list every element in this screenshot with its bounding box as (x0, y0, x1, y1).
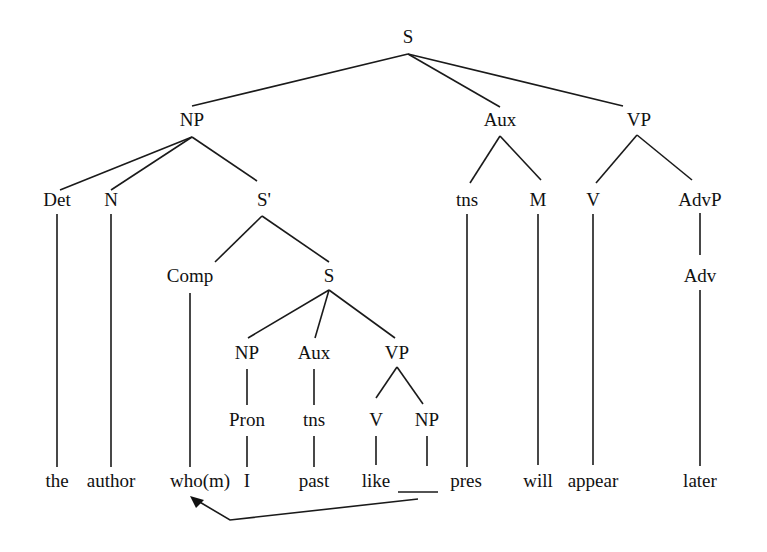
node-s-root: S (403, 26, 414, 47)
node-aux-emb: Aux (298, 342, 331, 363)
branch-line (262, 216, 329, 262)
tree-nodes: SNPAuxVPDetNS'tnsMVAdvPCompSAdvNPAuxVPPr… (43, 26, 721, 430)
movement-arrow (190, 496, 418, 520)
syntax-tree-diagram: SNPAuxVPDetNS'tnsMVAdvPCompSAdvNPAuxVPPr… (0, 0, 767, 552)
branch-line (329, 290, 395, 338)
branch-line (637, 135, 692, 180)
node-aux-main: Aux (484, 109, 517, 130)
branch-line (470, 136, 500, 183)
node-s-bar: S' (257, 189, 271, 210)
arrowhead-icon (190, 496, 204, 508)
leaf-I: I (244, 470, 250, 491)
node-n: N (104, 189, 118, 210)
node-np-gap: NP (415, 409, 439, 430)
branch-line (215, 216, 262, 262)
branch-line (376, 367, 397, 398)
node-np-emb: NP (235, 342, 259, 363)
node-vp-main: VP (627, 109, 651, 130)
branch-line (111, 137, 192, 190)
node-s-emb: S (324, 265, 335, 286)
leaf-like: like (362, 470, 391, 491)
tree-leaves: theauthorwho(m)Ipastlikepreswillappearla… (45, 470, 717, 492)
node-vp-emb: VP (385, 342, 409, 363)
branch-line (596, 135, 637, 183)
node-tns-main: tns (456, 189, 478, 210)
branch-line (192, 137, 257, 181)
node-tns-emb: tns (303, 409, 325, 430)
branch-line (397, 367, 423, 404)
branch-line (60, 137, 192, 190)
node-m: M (530, 189, 547, 210)
node-np-main: NP (180, 109, 204, 130)
node-v-main: V (586, 189, 600, 210)
leaf-past: past (299, 470, 330, 491)
branch-line (192, 54, 408, 106)
leaf-author: author (87, 470, 136, 491)
leaf-will: will (523, 470, 553, 491)
branch-line (500, 136, 541, 180)
node-det: Det (43, 189, 71, 210)
tree-branches (57, 54, 700, 467)
node-comp: Comp (167, 265, 213, 286)
leaf-later: later (683, 470, 717, 491)
branch-line (408, 54, 623, 106)
branch-line (408, 54, 500, 107)
leaf-whom: who(m) (170, 470, 230, 492)
leaf-pres: pres (450, 470, 482, 491)
movement-arrow-line (198, 499, 418, 520)
node-adv: Adv (684, 265, 717, 286)
leaf-the: the (45, 470, 68, 491)
node-v-emb: V (369, 409, 383, 430)
node-advp: AdvP (678, 189, 721, 210)
node-pron: Pron (229, 409, 265, 430)
leaf-appear: appear (568, 470, 619, 491)
